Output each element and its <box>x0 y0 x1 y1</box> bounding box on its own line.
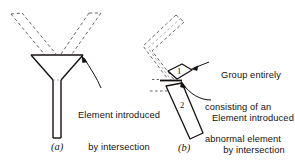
caption-panel-a: (a) <box>51 141 63 152</box>
caption-panel-b: (b) <box>178 142 190 153</box>
arrowhead-a <box>82 56 87 63</box>
annotation-panel-a-line1: Element introduced <box>72 110 166 121</box>
annotation-panel-a-line2: by intersection <box>72 142 166 153</box>
intersection-base-bar <box>152 80 182 81</box>
annotation-panel-b-lower-line2: by intersection <box>212 145 295 156</box>
dashed-left-arm <box>11 13 56 55</box>
dashed-right-arm <box>61 13 101 54</box>
annotation-panel-a: Element introduced by intersection of 3 … <box>72 89 166 164</box>
shape-label-1: 1 <box>177 66 181 76</box>
annotation-panel-b-lower: Element introduced by intersection <box>212 92 295 164</box>
introduced-element-shape <box>166 83 203 139</box>
shape-label-2: 2 <box>180 100 184 110</box>
annotation-panel-b-lower-line1: Element introduced <box>212 113 295 124</box>
leader-line-a <box>82 56 101 88</box>
annotation-panel-b-upper-line1: Group entirely <box>205 70 295 81</box>
figure-container: Element introduced by intersection of 3 … <box>0 0 295 164</box>
arrowhead-b-lower <box>181 82 187 89</box>
